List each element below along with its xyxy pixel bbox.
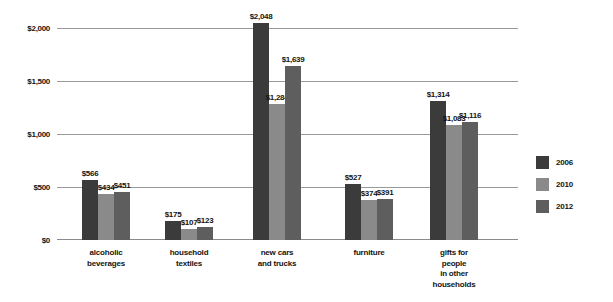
y-axis-tick-500: $500 bbox=[0, 183, 50, 192]
bar-value-label: $2,048 bbox=[250, 12, 273, 21]
bar-value-label: $451 bbox=[114, 181, 131, 190]
bar-value-label: $175 bbox=[165, 210, 182, 219]
bar-rect bbox=[377, 199, 393, 240]
bar-group-bars: $2,048$1,284$1,639 bbox=[253, 28, 301, 240]
bar[interactable]: $1,083 bbox=[446, 29, 462, 240]
bar-rect bbox=[253, 23, 269, 240]
y-axis-tick-1500: $1,500 bbox=[0, 77, 50, 86]
legend-item-2006[interactable]: 2006 bbox=[536, 156, 573, 169]
x-axis-category-line: household bbox=[144, 248, 234, 259]
x-axis-category-label: householdtextiles bbox=[144, 248, 234, 269]
bar-rect bbox=[98, 194, 114, 240]
bar-rect bbox=[114, 192, 130, 240]
x-axis-category-line: furniture bbox=[324, 248, 414, 259]
bar-value-label: $107 bbox=[181, 218, 198, 227]
x-axis-category-line: textiles bbox=[144, 259, 234, 270]
bar-value-label: $434 bbox=[98, 183, 115, 192]
bar[interactable]: $2,048 bbox=[253, 29, 269, 240]
bar[interactable]: $123 bbox=[197, 29, 213, 240]
bar-group-bars: $566$434$451 bbox=[82, 28, 130, 240]
x-axis-category-line: in other bbox=[409, 269, 499, 280]
bar[interactable]: $374 bbox=[361, 29, 377, 240]
bar[interactable]: $527 bbox=[345, 29, 361, 240]
bar-value-label: $1,116 bbox=[459, 111, 481, 120]
bar[interactable]: $566 bbox=[82, 29, 98, 240]
bar-rect bbox=[462, 122, 478, 240]
bar-rect bbox=[361, 200, 377, 240]
legend-swatch-2006 bbox=[536, 156, 549, 169]
x-axis-category-label: alcoholicbeverages bbox=[61, 248, 151, 269]
bar-rect bbox=[345, 184, 361, 240]
legend-swatch-2010 bbox=[536, 178, 549, 191]
bar-group-bars: $175$107$123 bbox=[165, 28, 213, 240]
x-axis-category-line: people bbox=[409, 259, 499, 270]
bar[interactable]: $107 bbox=[181, 29, 197, 240]
legend-label-2010: 2010 bbox=[556, 180, 573, 189]
bar-group-bars: $527$374$391 bbox=[345, 28, 393, 240]
x-axis-category-label: furniture bbox=[324, 248, 414, 259]
bar-value-label: $1,639 bbox=[282, 55, 305, 64]
bar[interactable]: $1,116 bbox=[462, 29, 478, 240]
bar-rect bbox=[82, 180, 98, 240]
bar-rect bbox=[269, 104, 285, 240]
bar-rect bbox=[181, 229, 197, 240]
legend-label-2012: 2012 bbox=[556, 202, 573, 211]
bar-group-bars: $1,314$1,083$1,116 bbox=[430, 28, 478, 240]
bar[interactable]: $451 bbox=[114, 29, 130, 240]
x-axis-category-label: gifts forpeoplein otherhouseholds bbox=[409, 248, 499, 290]
x-axis-category-line: and trucks bbox=[232, 259, 322, 270]
y-axis-tick-1000: $1,000 bbox=[0, 130, 50, 139]
x-axis-category-line: households bbox=[409, 280, 499, 291]
legend-item-2012[interactable]: 2012 bbox=[536, 200, 573, 213]
y-axis-tick-0: $0 bbox=[0, 236, 50, 245]
bar-rect bbox=[165, 221, 181, 240]
plot-area: $566$434$451$175$107$123$2,048$1,284$1,6… bbox=[57, 28, 518, 240]
bar[interactable]: $175 bbox=[165, 29, 181, 240]
bar-rect bbox=[446, 125, 462, 240]
x-axis-category-line: gifts for bbox=[409, 248, 499, 259]
bar[interactable]: $1,314 bbox=[430, 29, 446, 240]
legend-label-2006: 2006 bbox=[556, 158, 573, 167]
bar-rect bbox=[197, 227, 213, 240]
bar-value-label: $566 bbox=[82, 169, 99, 178]
legend-item-2010[interactable]: 2010 bbox=[536, 178, 573, 191]
bar-value-label: $374 bbox=[361, 189, 378, 198]
bar-value-label: $527 bbox=[345, 173, 362, 182]
x-axis-category-line: new cars bbox=[232, 248, 322, 259]
bar[interactable]: $391 bbox=[377, 29, 393, 240]
bar-rect bbox=[285, 66, 301, 240]
x-axis-category-line: beverages bbox=[61, 259, 151, 270]
bar-chart: $2,000 $1,500 $1,000 $500 $0 $566$434$45… bbox=[0, 0, 613, 302]
y-axis-tick-2000: $2,000 bbox=[0, 24, 50, 33]
legend-swatch-2012 bbox=[536, 200, 549, 213]
bar-value-label: $391 bbox=[377, 188, 394, 197]
bar[interactable]: $434 bbox=[98, 29, 114, 240]
bar-value-label: $123 bbox=[197, 216, 214, 225]
x-axis-category-line: alcoholic bbox=[61, 248, 151, 259]
bar[interactable]: $1,639 bbox=[285, 29, 301, 240]
x-axis-category-label: new carsand trucks bbox=[232, 248, 322, 269]
legend: 2006 2010 2012 bbox=[536, 156, 573, 222]
